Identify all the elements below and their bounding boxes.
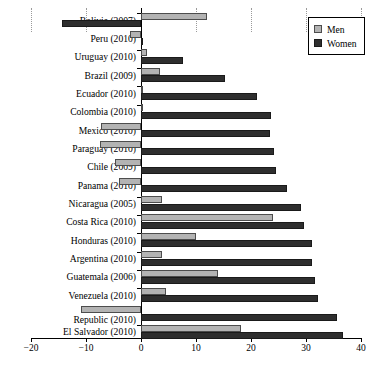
category-label: Panama (2010) xyxy=(1,181,136,192)
bar-women xyxy=(141,295,318,302)
category-label: Peru (2010) xyxy=(1,34,136,45)
bar-women xyxy=(141,130,270,137)
bar-men xyxy=(81,306,142,313)
bar-women xyxy=(141,204,301,211)
bar-men xyxy=(141,288,166,295)
bar-women xyxy=(141,167,276,174)
legend-swatch-women xyxy=(314,39,322,47)
bar-women xyxy=(141,38,143,45)
bar-women xyxy=(141,240,312,247)
x-tick-label-40: 40 xyxy=(341,343,374,353)
category-label: Honduras (2010) xyxy=(1,236,136,247)
category-label: El Salvador (2010) xyxy=(1,327,136,338)
bar-men xyxy=(101,123,141,130)
bar-women xyxy=(141,332,343,339)
legend: Men Women xyxy=(308,17,365,55)
bar-men xyxy=(141,196,162,203)
legend-item-men: Men xyxy=(314,22,357,36)
diverging-bar-chart: −20−10010203040 Bolivia (2007)Peru (2010… xyxy=(0,0,374,370)
bar-women xyxy=(141,148,274,155)
gridline-10 xyxy=(196,8,197,32)
bar-men xyxy=(141,49,147,56)
bar-men xyxy=(115,159,141,166)
x-tick-label-20: 20 xyxy=(231,343,271,353)
bar-women xyxy=(141,112,271,119)
bar-men xyxy=(141,86,143,93)
bar-women xyxy=(141,259,312,266)
x-tick-40 xyxy=(361,338,362,342)
bar-women xyxy=(141,57,183,64)
bar-women xyxy=(141,185,287,192)
gridline-30 xyxy=(306,8,307,32)
bar-men xyxy=(141,13,207,20)
bar-men xyxy=(100,141,141,148)
bar-women xyxy=(141,314,337,321)
x-tick-label--20: −20 xyxy=(11,343,51,353)
category-label: Costa Rica (2010) xyxy=(1,217,136,228)
bar-women xyxy=(141,277,315,284)
category-label: Nicaragua (2005) xyxy=(1,199,136,210)
category-label: Colombia (2010) xyxy=(1,107,136,118)
category-label: Ecuador (2010) xyxy=(1,89,136,100)
legend-item-women: Women xyxy=(314,36,357,50)
legend-label-women: Women xyxy=(327,38,357,49)
category-label: Brazil (2009) xyxy=(1,71,136,82)
legend-label-men: Men xyxy=(327,24,345,35)
bar-men xyxy=(141,251,162,258)
bar-men xyxy=(141,270,218,277)
bar-women xyxy=(62,20,141,27)
category-label: Argentina (2010) xyxy=(1,254,136,265)
bar-men xyxy=(141,214,273,221)
bar-men xyxy=(141,325,241,332)
category-label: Uruguay (2010) xyxy=(1,52,136,63)
bar-men xyxy=(119,178,141,185)
x-tick-label-10: 10 xyxy=(176,343,216,353)
bar-men xyxy=(141,233,196,240)
category-label: Guatemala (2006) xyxy=(1,272,136,283)
bar-women xyxy=(141,222,304,229)
x-tick-label-0: 0 xyxy=(121,343,161,353)
category-label: Venezuela (2010) xyxy=(1,291,136,302)
bar-women xyxy=(141,93,257,100)
legend-swatch-men xyxy=(314,25,322,33)
gridline-20 xyxy=(251,8,252,32)
bar-men xyxy=(141,68,160,75)
bar-women xyxy=(141,75,225,82)
x-tick-label-30: 30 xyxy=(286,343,326,353)
bar-men xyxy=(141,104,143,111)
x-tick-label--10: −10 xyxy=(66,343,106,353)
bar-men xyxy=(130,31,141,38)
